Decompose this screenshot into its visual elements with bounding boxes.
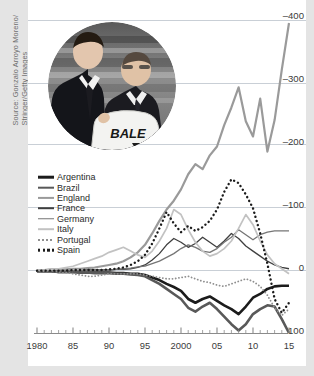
- legend-item-england[interactable]: England: [38, 193, 96, 203]
- legend-item-france[interactable]: France: [38, 203, 96, 213]
- legend-swatch-portugal: [38, 235, 54, 245]
- chart-screenshot: Source: Gonzalo Arroyo Moreno/ Stringer/…: [0, 0, 314, 376]
- legend-label-argentina: Argentina: [57, 172, 96, 182]
- legend-swatch-france: [38, 203, 54, 213]
- legend-label-italy: Italy: [57, 224, 74, 234]
- x-tick-label-2000: 2000: [171, 340, 192, 351]
- x-tick-label-85: 85: [68, 340, 78, 351]
- legend-swatch-germany: [38, 214, 54, 224]
- bale-presentation-photo: BALE: [48, 22, 176, 150]
- x-tick-label-90: 90: [104, 340, 114, 351]
- legend-item-brazil[interactable]: Brazil: [38, 182, 96, 192]
- legend-swatch-argentina: [38, 172, 54, 182]
- legend-label-france: France: [57, 203, 85, 213]
- legend-label-england: England: [57, 193, 90, 203]
- x-tick-label-05: 05: [212, 340, 222, 351]
- legend-item-italy[interactable]: Italy: [38, 224, 96, 234]
- y-tick-label-zero: 0: [299, 262, 304, 273]
- legend-item-spain[interactable]: Spain: [38, 245, 96, 255]
- legend-label-portugal: Portugal: [57, 235, 91, 245]
- legend-label-germany: Germany: [57, 214, 94, 224]
- x-tick-label-10: 10: [248, 340, 258, 351]
- y-tick-label-minus200: –200: [283, 136, 304, 147]
- x-tick-label-95: 95: [140, 340, 150, 351]
- legend-label-brazil: Brazil: [57, 183, 80, 193]
- legend-swatch-england: [38, 193, 54, 203]
- y-tick-label-minus300: –300: [283, 73, 304, 84]
- legend-swatch-italy: [38, 224, 54, 234]
- legend-item-argentina[interactable]: Argentina: [38, 172, 96, 182]
- chart-legend: Argentina Brazil England France Germany …: [38, 172, 96, 255]
- legend-swatch-spain: [38, 245, 54, 255]
- legend-label-spain: Spain: [57, 245, 80, 255]
- y-tick-label-100: 100: [288, 325, 304, 336]
- x-tick-label-15: 15: [284, 340, 294, 351]
- legend-swatch-brazil: [38, 183, 54, 193]
- photo-graphic: BALE: [48, 22, 176, 150]
- bottom-margin: [0, 366, 314, 376]
- legend-item-portugal[interactable]: Portugal: [38, 234, 96, 244]
- legend-item-germany[interactable]: Germany: [38, 214, 96, 224]
- jersey-name-text: BALE: [110, 126, 146, 141]
- y-tick-label-minus400: –400: [283, 10, 304, 21]
- x-tick-label-1980: 1980: [27, 340, 48, 351]
- y-tick-label-minus100: –100: [283, 199, 304, 210]
